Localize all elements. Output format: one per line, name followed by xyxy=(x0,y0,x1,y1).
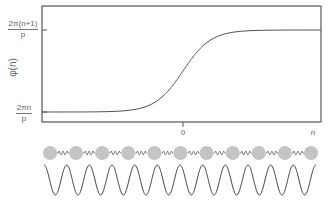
x-tick-label-n: n xyxy=(308,128,318,137)
diagram-canvas xyxy=(0,0,333,206)
periodic-potential-wave xyxy=(44,165,316,195)
y-tick-label-upper: 2π(n+1) p xyxy=(6,20,40,39)
kink-curve xyxy=(42,30,321,112)
y-tick-label-lower: 2πn p xyxy=(12,104,36,123)
y-axis-label: φ(n) xyxy=(7,58,18,77)
x-tick-label-zero: 0 xyxy=(178,128,188,137)
plot-frame xyxy=(42,6,321,122)
